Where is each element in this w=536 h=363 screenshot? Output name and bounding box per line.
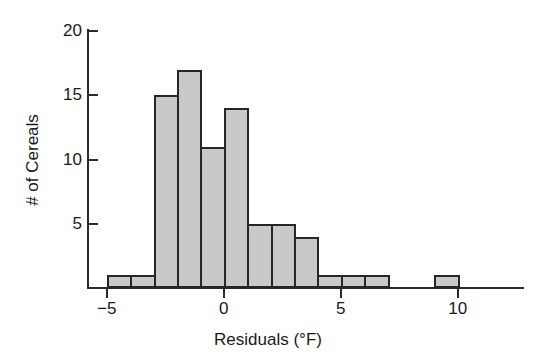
x-axis-label: Residuals (°F) xyxy=(0,330,536,350)
x-tick-label: 5 xyxy=(321,299,361,319)
x-tick-label: 10 xyxy=(438,299,478,319)
histogram-bar xyxy=(294,237,319,288)
histogram-bar xyxy=(107,275,132,288)
y-axis-label: # of Cereals xyxy=(23,65,43,255)
plot-area: 5101520 −50510 Residuals (°F) # of Cerea… xyxy=(0,0,536,363)
y-tick xyxy=(89,223,98,225)
histogram-bar xyxy=(364,275,389,288)
y-tick xyxy=(89,159,98,161)
x-tick xyxy=(457,289,459,298)
histogram-bar xyxy=(247,224,272,288)
histogram-bar xyxy=(224,108,249,288)
histogram-bar xyxy=(130,275,155,288)
histogram-bar xyxy=(154,95,179,288)
x-tick xyxy=(223,289,225,298)
y-tick xyxy=(89,94,98,96)
y-tick-label-wrap: 20 xyxy=(22,22,82,40)
y-tick xyxy=(89,30,98,32)
histogram-bar xyxy=(200,147,225,288)
x-tick xyxy=(340,289,342,298)
histogram-bar xyxy=(271,224,296,288)
x-tick xyxy=(106,289,108,298)
y-tick-label: 20 xyxy=(34,22,82,39)
x-tick-label: −5 xyxy=(87,299,127,319)
histogram-figure: 5101520 −50510 Residuals (°F) # of Cerea… xyxy=(0,0,536,363)
histogram-bar xyxy=(341,275,366,288)
x-tick-label: 0 xyxy=(204,299,244,319)
histogram-bar xyxy=(317,275,342,288)
histogram-bar xyxy=(177,70,202,288)
histogram-bar xyxy=(434,275,459,288)
